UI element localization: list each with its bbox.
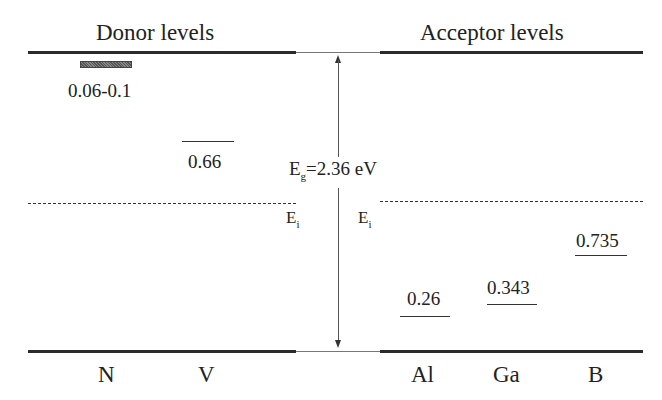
acceptor-level-b-line: [575, 255, 627, 256]
intrinsic-subscript-right: i: [368, 218, 371, 230]
element-label-al: Al: [411, 362, 434, 388]
acceptor-level-b-value: 0.735: [576, 230, 619, 252]
conduction-band-right: [380, 51, 643, 54]
element-label-b: B: [588, 362, 603, 388]
intrinsic-label-right: Ei: [358, 208, 371, 228]
bandgap-arrow-line-top: [338, 60, 339, 157]
donor-level-v-line: [182, 141, 234, 142]
element-label-n: N: [98, 362, 115, 388]
donor-level-n-band: [80, 61, 132, 68]
donor-level-n-value: 0.06-0.1: [68, 80, 131, 102]
donor-level-v-value: 0.66: [188, 151, 221, 173]
bandgap-arrow-down-icon: [335, 340, 341, 348]
intrinsic-subscript-left: i: [296, 218, 299, 230]
intrinsic-level-left: [28, 203, 296, 204]
valence-band-gap-line: [296, 351, 380, 352]
valence-band-left: [28, 350, 296, 353]
conduction-band-left: [28, 51, 296, 54]
bandgap-subscript: g: [301, 170, 307, 182]
intrinsic-symbol-right: E: [358, 208, 368, 227]
bandgap-symbol: E: [289, 158, 301, 179]
element-label-v: V: [198, 362, 215, 388]
acceptor-levels-header: Acceptor levels: [420, 20, 564, 46]
acceptor-level-ga-line: [487, 304, 537, 305]
acceptor-level-al-value: 0.26: [407, 288, 440, 310]
bandgap-label: Eg=2.36 eV: [288, 158, 378, 180]
valence-band-right: [380, 350, 643, 353]
bandgap-value: =2.36 eV: [306, 158, 377, 179]
acceptor-level-ga-value: 0.343: [487, 277, 530, 299]
element-label-ga: Ga: [493, 362, 520, 388]
conduction-band-gap-line: [296, 52, 380, 53]
acceptor-level-al-line: [400, 316, 450, 317]
intrinsic-symbol-left: E: [286, 208, 296, 227]
bandgap-arrow-line-bottom: [338, 188, 339, 340]
intrinsic-label-left: Ei: [286, 208, 299, 228]
intrinsic-level-right: [380, 201, 643, 202]
donor-levels-header: Donor levels: [96, 20, 214, 46]
